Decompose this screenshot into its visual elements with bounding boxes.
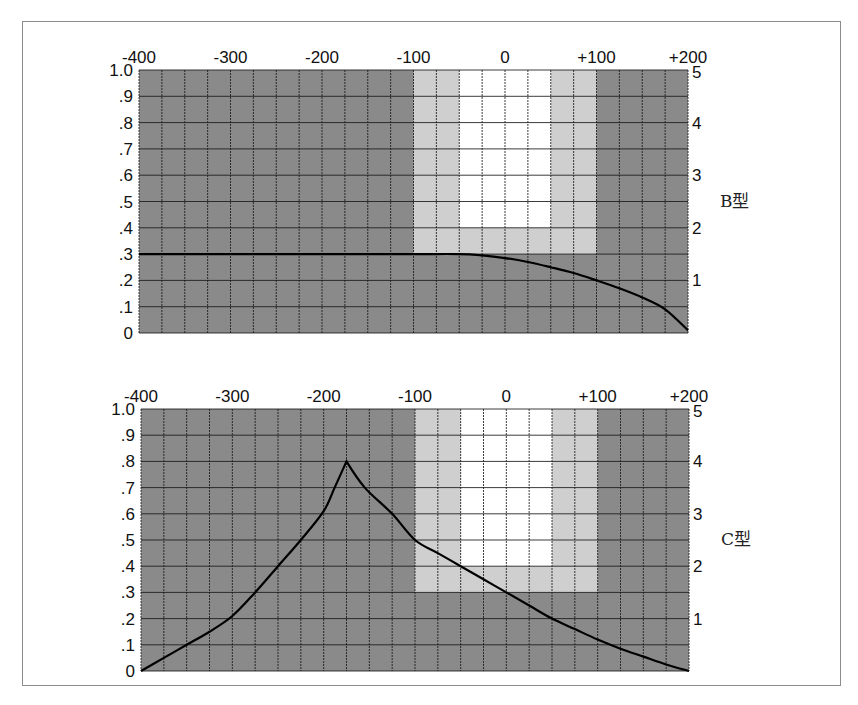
y-tick-label-left: .6 bbox=[121, 505, 135, 524]
x-tick-label: -200 bbox=[307, 387, 341, 406]
y-tick-label-left: .6 bbox=[119, 166, 133, 185]
y-tick-label-right: 1 bbox=[693, 610, 702, 629]
y-tick-label-left: 1.0 bbox=[109, 61, 133, 80]
x-tick-label: -100 bbox=[398, 387, 432, 406]
x-tick-label: -100 bbox=[396, 48, 430, 67]
y-tick-label-left: .8 bbox=[121, 452, 135, 471]
y-tick-label-left: .9 bbox=[121, 426, 135, 445]
y-tick-label-left: 0 bbox=[124, 324, 133, 343]
y-tick-label-right: 5 bbox=[693, 402, 702, 421]
y-tick-label-right: 4 bbox=[693, 452, 702, 471]
x-tick-label: -200 bbox=[305, 48, 339, 67]
y-tick-label-left: .9 bbox=[119, 87, 133, 106]
x-tick-label: 0 bbox=[502, 387, 511, 406]
y-tick-label-left: .4 bbox=[119, 219, 133, 238]
y-tick-label-left: 0 bbox=[126, 662, 135, 681]
y-tick-label-right: 5 bbox=[692, 63, 701, 82]
y-tick-label-right: 4 bbox=[692, 114, 701, 133]
y-tick-label-left: .1 bbox=[119, 298, 133, 317]
chart-type-label: C型 bbox=[721, 529, 751, 549]
y-tick-label-left: .3 bbox=[121, 583, 135, 602]
figure: -400-300-200-1000+100+2001.0.9.8.7.6.5.4… bbox=[0, 0, 858, 705]
y-tick-label-right: 1 bbox=[692, 271, 701, 290]
chart-c-type: -400-300-200-1000+100+2001.0.9.8.7.6.5.4… bbox=[111, 387, 751, 681]
y-tick-label-right: 2 bbox=[693, 557, 702, 576]
x-tick-label: -300 bbox=[213, 48, 247, 67]
y-tick-label-left: .3 bbox=[119, 245, 133, 264]
y-tick-label-right: 3 bbox=[692, 166, 701, 185]
y-tick-label-right: 3 bbox=[693, 505, 702, 524]
y-tick-label-left: .5 bbox=[119, 193, 133, 212]
y-tick-label-left: .1 bbox=[121, 636, 135, 655]
x-tick-label: -300 bbox=[215, 387, 249, 406]
y-tick-label-left: 1.0 bbox=[111, 400, 135, 419]
y-tick-label-right: 2 bbox=[692, 219, 701, 238]
x-tick-label: 0 bbox=[500, 48, 509, 67]
y-tick-label-left: .5 bbox=[121, 531, 135, 550]
y-tick-label-left: .4 bbox=[121, 557, 135, 576]
y-tick-label-left: .8 bbox=[119, 114, 133, 133]
y-tick-label-left: .2 bbox=[119, 271, 133, 290]
chart-type-label: B型 bbox=[720, 191, 750, 211]
y-tick-label-left: .7 bbox=[121, 479, 135, 498]
x-tick-label: +100 bbox=[579, 387, 617, 406]
y-tick-label-left: .7 bbox=[119, 140, 133, 159]
chart-b-type: -400-300-200-1000+100+2001.0.9.8.7.6.5.4… bbox=[109, 48, 749, 343]
x-tick-label: +100 bbox=[577, 48, 615, 67]
y-tick-label-left: .2 bbox=[121, 610, 135, 629]
